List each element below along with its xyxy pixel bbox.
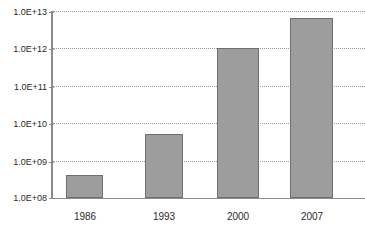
y-tick-1e10 xyxy=(49,124,54,125)
bar-1993 xyxy=(145,134,183,199)
gridline-1e13: 1.0E+13 xyxy=(53,11,365,12)
chart-title-cropped xyxy=(0,0,365,5)
plot-area: 1.0E+13 1.0E+12 1.0E+11 1.0E+10 1.0E+09 … xyxy=(51,11,365,198)
y-axis-label-1e11: 1.0E+11 xyxy=(0,83,47,92)
y-axis-label-1e8: 1.0E+08 xyxy=(0,194,47,203)
y-axis-label-1e10: 1.0E+10 xyxy=(0,120,47,129)
y-axis-label-1e12: 1.0E+12 xyxy=(0,45,47,54)
y-tick-1e8 xyxy=(49,198,54,199)
y-tick-1e11 xyxy=(49,87,54,88)
y-tick-1e13 xyxy=(49,12,54,13)
bar-2000 xyxy=(217,48,259,198)
x-axis-label-2000: 2000 xyxy=(213,211,263,223)
x-axis-line xyxy=(51,198,365,199)
bar-1986 xyxy=(66,175,103,199)
y-tick-1e12 xyxy=(49,49,54,50)
x-axis-label-2007: 2007 xyxy=(287,211,337,223)
chart-screenshot: 1.0E+13 1.0E+12 1.0E+11 1.0E+10 1.0E+09 … xyxy=(0,0,365,227)
bar-2007 xyxy=(290,18,333,198)
y-axis-label-1e9: 1.0E+09 xyxy=(0,158,47,167)
x-axis-label-1993: 1993 xyxy=(139,211,189,223)
y-axis-label-1e13: 1.0E+13 xyxy=(0,8,47,17)
x-axis-label-1986: 1986 xyxy=(60,211,110,223)
y-tick-1e9 xyxy=(49,162,54,163)
y-axis-line xyxy=(51,11,53,199)
